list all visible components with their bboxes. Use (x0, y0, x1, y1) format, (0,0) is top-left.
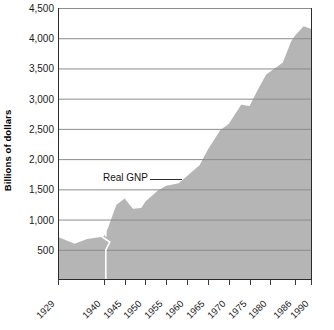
y-tick-label: 3,000 (8, 93, 54, 104)
x-axis-tick-marks (58, 280, 312, 285)
x-tick-label: 1945 (101, 298, 124, 321)
y-tick-label: 4,000 (8, 33, 54, 44)
x-tick-mark (145, 280, 146, 285)
y-tick-label: 2,000 (8, 154, 54, 165)
y-tick-label: 1,000 (8, 214, 54, 225)
x-tick-label: 1960 (163, 298, 186, 321)
series-annotation-label: Real GNP (103, 172, 148, 183)
x-tick-mark (166, 280, 167, 285)
plot-svg (58, 8, 312, 280)
x-tick-label: 1990 (288, 298, 311, 321)
x-tick-mark (229, 280, 230, 285)
y-tick-label: 500 (8, 244, 54, 255)
x-tick-label: 1975 (225, 298, 248, 321)
y-tick-label: 3,500 (8, 63, 54, 74)
x-tick-label: 1980 (246, 298, 269, 321)
x-tick-mark (208, 280, 209, 285)
x-tick-mark (250, 280, 251, 285)
x-tick-mark (295, 280, 296, 285)
y-tick-label: 1,500 (8, 184, 54, 195)
x-tick-label: 1950 (121, 298, 144, 321)
plot-area (58, 8, 312, 280)
x-tick-label: 1940 (80, 298, 103, 321)
x-tick-mark (58, 280, 59, 285)
x-tick-label: 1955 (142, 298, 165, 321)
x-tick-mark (187, 280, 188, 285)
x-axis-tick-labels: 1929194019451950195519601965197019751980… (58, 286, 312, 330)
y-axis-tick-labels: 4,5004,0003,5003,0002,5002,0001,5001,000… (6, 0, 54, 330)
series-annotation-leader-line (150, 179, 182, 180)
x-tick-label: 1965 (184, 298, 207, 321)
area-series-real-gnp (58, 26, 312, 280)
x-tick-mark (104, 280, 105, 285)
y-tick-label: 4,500 (8, 3, 54, 14)
x-tick-label: 1970 (205, 298, 228, 321)
x-tick-mark (125, 280, 126, 285)
x-tick-mark (311, 280, 312, 285)
real-gnp-area-chart: Billions of dollars 4,5004,0003,5003,000… (0, 0, 334, 330)
y-tick-label: 2,500 (8, 123, 54, 134)
x-tick-mark (270, 280, 271, 285)
